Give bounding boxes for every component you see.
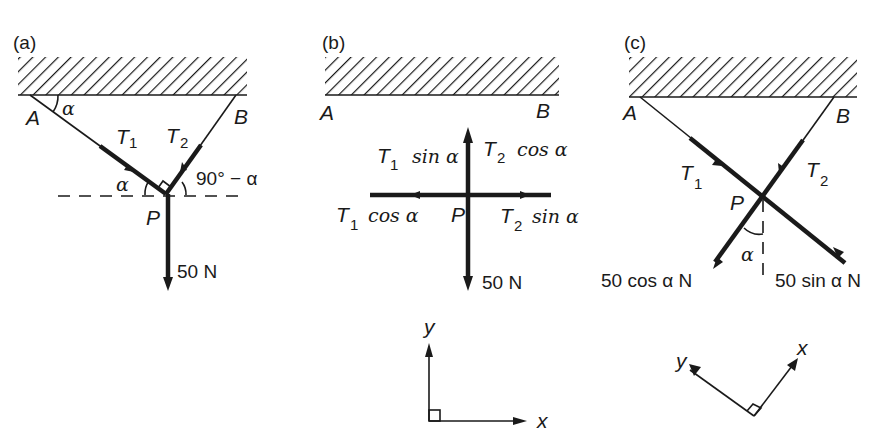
t2-label: T <box>806 158 821 181</box>
left-label: T <box>336 203 351 226</box>
up-right-sub: 2 <box>497 149 505 166</box>
angle-label: α <box>741 243 754 265</box>
point-b-label: B <box>234 105 248 128</box>
left-fn: cos α <box>368 204 419 226</box>
x-axis-arrow-icon <box>513 417 527 425</box>
left-arrow-icon <box>410 191 420 199</box>
y-axis-arrow-icon <box>425 343 433 357</box>
y-axis-label: y <box>674 349 688 372</box>
t1-sub: 1 <box>694 175 702 192</box>
angle-arc-p-left <box>145 181 149 195</box>
angle-arc <box>744 228 763 234</box>
weight-label: 50 N <box>177 261 217 282</box>
right-angle-icon <box>747 404 761 416</box>
y-axis-label: y <box>422 315 436 338</box>
t1-vector <box>100 146 166 194</box>
t2-label: T <box>166 124 181 147</box>
t1-sub: 1 <box>129 134 137 151</box>
weight-label: 50 N <box>482 272 522 293</box>
up-right-label: T <box>483 137 498 160</box>
y-axis <box>690 370 754 416</box>
t2-sub: 2 <box>820 172 828 189</box>
panel-a: (a) A α B T 1 T 2 90° − α α P 50 N <box>13 32 257 291</box>
point-b-label: B <box>536 99 550 122</box>
panel-c: (c) A B T 1 T 2 P α 50 cos α N 50 sin α … <box>601 32 861 416</box>
force-diagram: (a) A α B T 1 T 2 90° − α α P 50 N <box>0 0 876 447</box>
right-sub: 2 <box>514 217 522 234</box>
panel-b-label: (b) <box>322 32 345 53</box>
angle-p-left-label: α <box>116 173 129 195</box>
point-b-label: B <box>836 104 850 127</box>
down-arrow-icon <box>463 276 473 291</box>
point-p-label: P <box>451 203 465 226</box>
angle-arc-a <box>53 95 58 112</box>
t2-and-cos-component-line <box>715 140 803 262</box>
right-label: T <box>500 204 515 227</box>
ceiling-hatch <box>18 57 247 95</box>
up-arrow-icon <box>463 127 473 143</box>
x-axis-label: x <box>536 409 549 432</box>
point-p-label: P <box>730 191 744 214</box>
t2-sub: 2 <box>180 134 188 151</box>
left-sub: 1 <box>350 216 358 233</box>
ceiling-hatch <box>629 57 857 97</box>
right-angle-icon <box>429 410 440 421</box>
cos-component-arrow-icon <box>713 257 723 269</box>
panel-b: (b) A B T 1 sin α T 2 cos α T 1 cos α P … <box>318 32 579 432</box>
point-p-label: P <box>146 206 160 229</box>
right-arrow-icon <box>520 191 530 199</box>
t1-label: T <box>680 161 695 184</box>
up-left-sub: 1 <box>390 156 398 173</box>
point-a-label: A <box>621 101 637 124</box>
up-left-fn: sin α <box>412 145 459 167</box>
angle-arc-p-right <box>182 182 186 195</box>
x-axis-label: x <box>796 336 809 359</box>
ceiling-hatch <box>325 57 559 95</box>
sin-component-label: 50 sin α N <box>775 270 861 291</box>
cos-component-label: 50 cos α N <box>601 270 692 291</box>
panel-c-label: (c) <box>624 32 646 53</box>
weight-arrow-icon <box>163 277 173 291</box>
right-fn: sin α <box>532 205 579 227</box>
panel-a-label: (a) <box>13 32 36 53</box>
point-a-label: A <box>24 106 40 129</box>
point-a-label: A <box>318 101 334 124</box>
t1-and-sin-component-line <box>690 138 845 263</box>
up-right-fn: cos α <box>517 138 568 160</box>
angle-a-label: α <box>62 97 75 119</box>
angle-p-right-label: 90° − α <box>196 168 257 189</box>
